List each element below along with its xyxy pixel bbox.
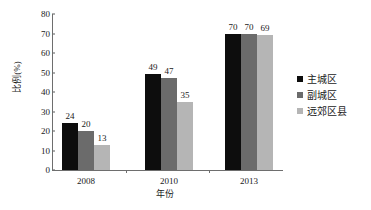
x-axis-tick-mark — [209, 170, 210, 173]
bar[interactable] — [225, 34, 241, 171]
y-axis-tick-label: 60 — [26, 49, 50, 58]
legend-item-label: 远郊区县 — [307, 106, 347, 117]
bar[interactable] — [145, 74, 161, 170]
y-axis-tick-label: 80 — [26, 10, 50, 19]
legend-swatch-icon — [297, 92, 303, 98]
bar[interactable] — [257, 35, 273, 170]
x-axis-tick-label: 2010 — [139, 176, 199, 186]
legend-item[interactable]: 副城区 — [297, 87, 369, 103]
bar-value-label: 47 — [157, 67, 181, 76]
y-axis-tick-label: 0 — [26, 166, 50, 175]
bar-value-label: 35 — [173, 91, 197, 100]
legend-item[interactable]: 主城区 — [297, 71, 369, 87]
bar-value-label: 20 — [74, 120, 98, 129]
y-axis-tick-label: 70 — [26, 29, 50, 38]
legend-swatch-icon — [297, 108, 303, 114]
legend-item[interactable]: 远郊区县 — [297, 103, 369, 119]
bar[interactable] — [177, 102, 193, 170]
bar[interactable] — [94, 145, 110, 170]
legend-item-label: 副城区 — [307, 90, 337, 101]
bar-group: 707069 — [225, 14, 273, 170]
legend-item-label: 主城区 — [307, 74, 337, 85]
bar-value-label: 69 — [253, 24, 277, 33]
plot-area: 242013494735707069 — [52, 14, 265, 170]
y-axis-tick-label: 40 — [26, 88, 50, 97]
y-axis-tick-label: 20 — [26, 127, 50, 136]
bar-group: 242013 — [62, 14, 110, 170]
x-axis-title: 年份 — [135, 189, 195, 199]
y-axis-tick-label: 10 — [26, 146, 50, 155]
legend-swatch-icon — [297, 76, 303, 82]
bar[interactable] — [241, 34, 257, 171]
y-axis-title: 比例(%) — [12, 47, 22, 107]
bar-value-label: 13 — [90, 134, 114, 143]
x-axis-tick-label: 2013 — [219, 176, 279, 186]
y-axis-tick-label: 50 — [26, 68, 50, 77]
bar[interactable] — [62, 123, 78, 170]
x-axis-line — [52, 170, 283, 171]
legend: 主城区副城区远郊区县 — [297, 71, 369, 119]
x-axis-tick-label: 2008 — [56, 176, 116, 186]
y-axis-tick-label: 30 — [26, 107, 50, 116]
y-axis-tick-labels: 80706050403020100 — [22, 0, 50, 210]
bar-group: 494735 — [145, 14, 193, 170]
bar-chart: 比例(%) 80706050403020100 2420134947357070… — [0, 0, 371, 210]
x-axis-tick-mark — [126, 170, 127, 173]
